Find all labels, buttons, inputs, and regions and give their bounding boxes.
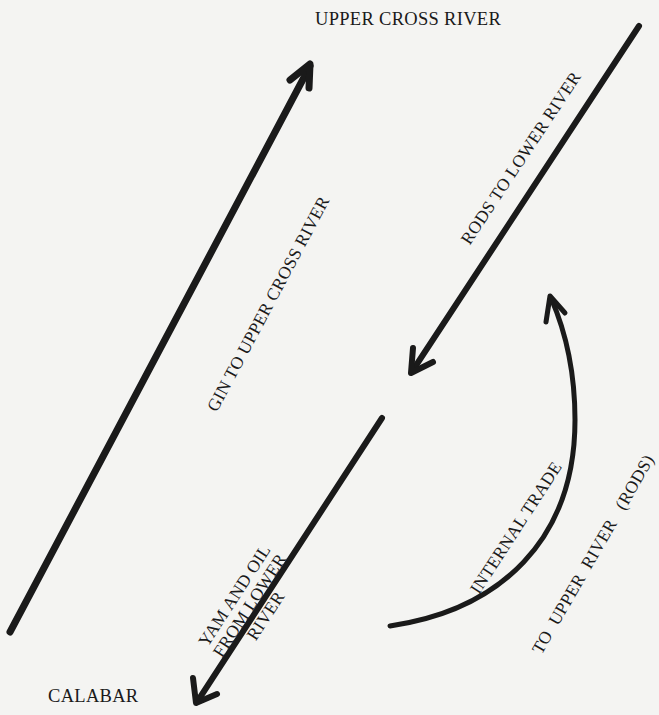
place-upper-cross-river: UPPER CROSS RIVER bbox=[315, 10, 501, 29]
place-calabar: CALABAR bbox=[48, 687, 139, 706]
rods-arrow bbox=[411, 26, 639, 373]
